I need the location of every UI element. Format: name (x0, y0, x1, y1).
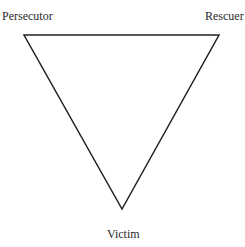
triangle-graphic (0, 0, 245, 247)
victim-label: Victim (107, 228, 140, 240)
rescuer-label: Rescuer (205, 10, 244, 22)
drama-triangle-diagram: Persecutor Rescuer Victim (0, 0, 245, 247)
inverted-triangle-shape (24, 35, 219, 209)
persecutor-label: Persecutor (2, 10, 53, 22)
